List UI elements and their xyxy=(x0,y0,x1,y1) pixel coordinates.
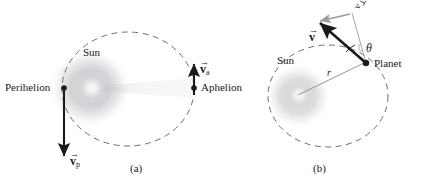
panel-a-graphics xyxy=(48,32,197,156)
planet-label: Planet xyxy=(374,58,402,69)
sun-label-a: Sun xyxy=(83,47,100,58)
panel-a-caption: (a) xyxy=(130,163,142,174)
panel-b-caption: (b) xyxy=(313,163,326,174)
sun-label-b: Sun xyxy=(277,55,294,66)
figure-canvas xyxy=(0,0,425,188)
planet-point xyxy=(363,60,369,66)
sun-core-a xyxy=(79,75,105,101)
perihelion-point xyxy=(61,85,67,91)
vector-arrow-accent-v: → xyxy=(309,26,318,35)
velocity-vector-arrow xyxy=(320,23,366,63)
velocity-perihelion-symbol: →v xyxy=(70,154,76,168)
velocity-vector-label: →v xyxy=(309,28,315,44)
velocity-perihelion-label: →vp xyxy=(70,152,80,169)
aphelion-point xyxy=(191,85,197,91)
velocity-symbol: →v xyxy=(309,30,315,44)
velocity-radial-component-arrow xyxy=(320,14,350,21)
orbital-mechanics-figure: Sun Perihelion Aphelion →va →vp (a) Sun … xyxy=(0,0,425,188)
perihelion-label: Perihelion xyxy=(5,82,50,93)
radius-label: r xyxy=(327,68,331,78)
vector-arrow-accent-p: → xyxy=(70,150,79,159)
angle-theta-label: θ xyxy=(366,42,372,54)
vector-arrow-accent-a: → xyxy=(200,58,209,67)
panel-b-graphics xyxy=(265,13,388,147)
velocity-aphelion-label: →va xyxy=(200,60,210,77)
velocity-aphelion-subscript: a xyxy=(206,68,210,77)
velocity-aphelion-symbol: →v xyxy=(200,62,206,76)
velocity-perihelion-subscript: p xyxy=(76,160,80,169)
aphelion-label: Aphelion xyxy=(201,82,242,93)
